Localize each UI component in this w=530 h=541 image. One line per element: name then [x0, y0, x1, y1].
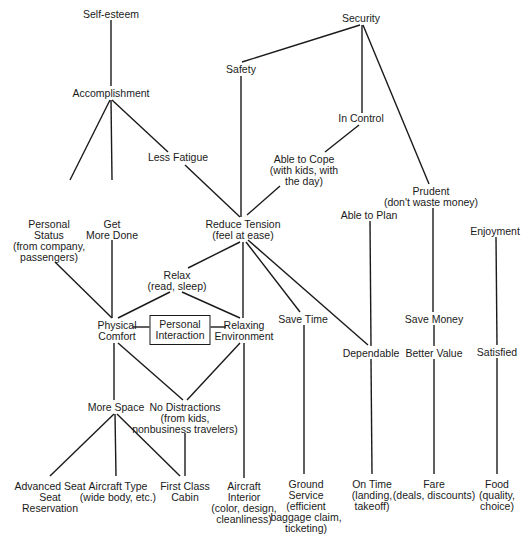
node-less-fatigue: Less Fatigue	[148, 152, 208, 163]
node-personal-status: Personal Status (from company, passenger…	[13, 219, 85, 263]
edge-security-to-prudent	[363, 25, 429, 184]
edge-able-to-plan-to-dependable	[370, 221, 371, 346]
node-advanced-seat-reservation: Advanced Seat Seat Reservation	[14, 481, 85, 514]
node-save-money: Save Money	[405, 314, 463, 325]
edge-more-space-to-aircraft-type	[115, 414, 116, 476]
edge-accomplishment-to-personal-status	[70, 100, 110, 180]
node-on-time: On Time (landing, takeoff)	[352, 479, 392, 512]
edge-physical-comfort-to-no-distractions	[118, 343, 183, 400]
node-self-esteem: Self-esteem	[83, 9, 139, 20]
node-better-value: Better Value	[405, 348, 462, 359]
edge-enjoyment-to-satisfied	[496, 237, 497, 345]
edge-accomplishment-to-less-fatigue	[112, 100, 168, 152]
edge-more-space-to-advanced-seat-reservation	[50, 414, 114, 476]
node-safety: Safety	[226, 64, 256, 75]
edge-less-fatigue-to-reduce-tension	[185, 165, 240, 217]
edge-relaxing-environment-to-no-distractions	[187, 343, 240, 400]
node-fare: Fare (deals, discounts)	[393, 479, 475, 501]
node-able-to-plan: Able to Plan	[341, 210, 398, 221]
edge-accomplishment-to-get-more-done	[111, 100, 112, 180]
node-first-class-cabin: First Class Cabin	[160, 481, 210, 503]
node-reduce-tension: Reduce Tension (feel at ease)	[205, 219, 280, 241]
edge-reduce-tension-to-save-time	[246, 242, 300, 312]
node-ground-service: Ground Service (efficient baggage claim,…	[270, 479, 341, 534]
node-personal-interaction: Personal Interaction	[149, 315, 210, 345]
node-relaxing-environment: Relaxing Environment	[215, 320, 274, 342]
edge-layer	[0, 0, 530, 541]
edge-dependable-to-on-time	[371, 359, 372, 474]
edge-reduce-tension-to-relax	[188, 242, 240, 268]
node-enjoyment: Enjoyment	[470, 226, 520, 237]
node-security: Security	[342, 13, 380, 24]
node-save-time: Save Time	[278, 314, 328, 325]
node-satisfied: Satisfied	[477, 347, 517, 358]
node-relax: Relax (read, sleep)	[148, 270, 207, 292]
node-no-distractions: No Distractions (from kids, nonbusiness …	[132, 402, 238, 435]
node-aircraft-type: Aircraft Type (wide body, etc.)	[80, 481, 156, 503]
edge-personal-status-to-physical-comfort	[55, 262, 112, 318]
value-map-diagram: Self-esteemSecuritySafetyAccomplishmentI…	[0, 0, 530, 541]
node-accomplishment: Accomplishment	[72, 88, 149, 99]
node-physical-comfort: Physical Comfort	[97, 320, 136, 342]
edge-in-control-to-able-to-cope	[325, 125, 359, 152]
node-food: Food (quality, choice)	[479, 479, 515, 512]
node-in-control: In Control	[338, 113, 384, 124]
node-prudent: Prudent (don't waste money)	[384, 186, 478, 208]
edge-security-to-safety	[242, 25, 360, 62]
node-aircraft-interior: Aircraft Interior (color, design, cleanl…	[211, 481, 276, 525]
edge-able-to-cope-to-reduce-tension	[247, 186, 280, 215]
node-able-to-cope: Able to Cope (with kids, with the day)	[270, 154, 338, 187]
node-dependable: Dependable	[343, 348, 400, 359]
node-get-more-done: Get More Done	[86, 219, 138, 241]
